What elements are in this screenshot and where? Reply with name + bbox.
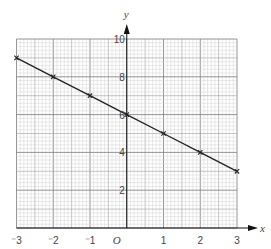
axis-labels: ⁻3⁻2⁻1O123246810xy bbox=[11, 8, 265, 246]
y-tick-label: 6 bbox=[119, 110, 125, 121]
x-tick-label: ⁻3 bbox=[11, 235, 22, 246]
axes bbox=[17, 24, 259, 231]
x-axis-arrow-icon bbox=[248, 225, 258, 231]
y-tick-label: 10 bbox=[114, 34, 126, 45]
y-axis-label: y bbox=[123, 8, 129, 20]
y-axis-arrow-icon bbox=[124, 24, 130, 34]
x-axis-label: x bbox=[259, 222, 265, 234]
x-tick-label: 1 bbox=[161, 235, 167, 246]
line-chart: ⁻3⁻2⁻1O123246810xy bbox=[0, 0, 271, 249]
x-tick-label: 3 bbox=[234, 235, 240, 246]
x-tick-label: ⁻2 bbox=[48, 235, 59, 246]
y-tick-label: 8 bbox=[119, 72, 125, 83]
x-tick-label: 2 bbox=[197, 235, 203, 246]
y-tick-label: 4 bbox=[119, 147, 125, 158]
origin-label: O bbox=[113, 234, 121, 246]
y-tick-label: 2 bbox=[119, 185, 125, 196]
x-tick-label: ⁻1 bbox=[85, 235, 96, 246]
